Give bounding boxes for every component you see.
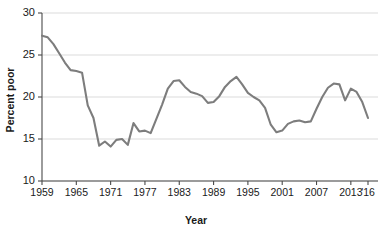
x-axis-title: Year — [185, 214, 207, 226]
data-line-0 — [42, 36, 368, 147]
poverty-rate-line-chart: 1015202530 19591965197119771983198919952… — [0, 0, 385, 229]
y-tick-label-30: 30 — [23, 6, 35, 18]
x-tick-label-1971: 1971 — [99, 186, 123, 198]
chart-canvas: 1015202530 19591965197119771983198919952… — [0, 0, 385, 229]
y-tick-label-20: 20 — [23, 90, 35, 102]
x-tick-label-1965: 1965 — [65, 186, 89, 198]
x-tick-label-2001: 2001 — [271, 186, 295, 198]
ytick-labels-group: 1015202530 — [23, 6, 35, 186]
x-tick-label-1989: 1989 — [202, 186, 226, 198]
x-tick-label-1995: 1995 — [236, 186, 260, 198]
y-axis-title: Percent poor — [4, 68, 16, 133]
xtick-marks-group — [42, 181, 368, 185]
xtick-labels-group: 1959196519711977198319891995200120072013… — [30, 186, 375, 198]
y-tick-label-25: 25 — [23, 48, 35, 60]
x-tick-label-2007: 2007 — [305, 186, 329, 198]
x-tick-label-1983: 1983 — [168, 186, 192, 198]
y-tick-label-10: 10 — [23, 174, 35, 186]
gridlines-group — [42, 13, 378, 181]
x-tick-label-2013: 2013 — [339, 186, 363, 198]
x-tick-label-1977: 1977 — [133, 186, 157, 198]
x-tick-label-1959: 1959 — [30, 186, 54, 198]
x-tick-label-16: '16 — [361, 186, 375, 198]
y-tick-label-15: 15 — [23, 132, 35, 144]
ytick-marks-group — [38, 13, 42, 181]
data-series-group — [42, 36, 368, 147]
